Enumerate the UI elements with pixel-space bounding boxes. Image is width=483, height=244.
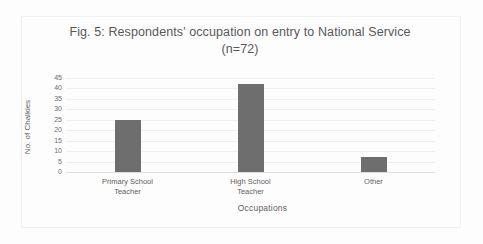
x-axis-label-line: Teacher — [203, 187, 299, 197]
x-axis-label-line: Other — [326, 177, 422, 187]
x-axis-label-line: Primary School — [80, 177, 176, 187]
y-axis-title: No. of Chalkies — [22, 84, 34, 170]
y-tick-label: 20 — [44, 126, 62, 134]
bar — [238, 84, 264, 172]
bar — [361, 157, 387, 172]
y-tick-label: 40 — [44, 84, 62, 92]
chart-title-line-2: (n=72) — [40, 41, 440, 58]
y-tick-label: 45 — [44, 74, 62, 82]
y-tick-label: 15 — [44, 137, 62, 145]
figure-container: Fig. 5: Respondents' occupation on entry… — [0, 0, 483, 244]
chart-title-line-1: Fig. 5: Respondents' occupation on entry… — [69, 25, 410, 39]
plot-area — [66, 78, 435, 172]
x-axis-category-labels: Primary SchoolTeacherHigh SchoolTeacherO… — [66, 177, 435, 201]
y-axis-title-text: No. of Chalkies — [22, 84, 34, 170]
y-tick-label: 10 — [44, 147, 62, 155]
bar — [115, 120, 141, 172]
x-axis-label: High SchoolTeacher — [203, 177, 299, 197]
y-tick-label: 25 — [44, 116, 62, 124]
x-axis-label: Other — [326, 177, 422, 187]
x-axis-label-line: High School — [203, 177, 299, 187]
chart-title: Fig. 5: Respondents' occupation on entry… — [40, 24, 440, 58]
y-tick-label: 30 — [44, 105, 62, 113]
y-tick-label: 0 — [44, 168, 62, 176]
x-axis-title: Occupations — [0, 203, 483, 213]
gridline-0 — [66, 172, 435, 173]
y-axis-tick-labels: 454035302520151050 — [44, 72, 62, 178]
y-tick-label: 5 — [44, 158, 62, 166]
x-axis-label-line: Teacher — [80, 187, 176, 197]
x-axis-label: Primary SchoolTeacher — [80, 177, 176, 197]
bar-series — [66, 78, 435, 172]
y-tick-label: 35 — [44, 95, 62, 103]
